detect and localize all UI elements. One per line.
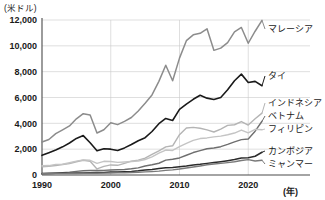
x-axis-year-label: (年) — [283, 186, 298, 197]
series-line-ベトナム — [42, 121, 262, 174]
y-axis-unit-label: (米ドル) — [4, 3, 37, 13]
y-axis-tick-labels: 02,0004,0006,0008,00010,00012,000 — [9, 15, 37, 180]
y-axis-tick-label: 10,000 — [9, 41, 37, 51]
y-axis-tick-label: 4,000 — [14, 119, 37, 129]
x-axis-tick-labels: 1990200020102020 — [32, 180, 258, 190]
y-axis-tick-label: 8,000 — [14, 67, 37, 77]
legend-label-カンボジア: カンボジア — [268, 146, 313, 156]
legend-leader-lines — [262, 20, 265, 164]
legend-leader-ベトナム — [262, 116, 265, 121]
series-line-マレーシア — [42, 20, 262, 142]
x-axis-tick-label: 2020 — [238, 180, 258, 190]
y-axis-tick-label: 6,000 — [14, 93, 37, 103]
legend-label-マレーシア: マレーシア — [268, 24, 313, 34]
data-series-group — [42, 20, 262, 173]
x-axis-tick-label: 2010 — [169, 180, 189, 190]
chart-canvas: 02,0004,0006,0008,00010,00012,000 199020… — [0, 0, 325, 200]
legend-leader-ミャンマー — [262, 160, 265, 164]
legend-label-フィリピン: フィリピン — [268, 124, 313, 134]
legend-leader-フィリピン — [262, 129, 265, 130]
legend-leader-カンボジア — [262, 151, 265, 152]
line-chart: 02,0004,0006,0008,00010,00012,000 199020… — [0, 0, 325, 200]
legend-leader-マレーシア — [262, 20, 265, 29]
y-axis-tick-label: 2,000 — [14, 144, 37, 154]
legend-leader-インドネシア — [262, 103, 265, 113]
legend-leader-タイ — [262, 76, 265, 86]
x-axis-tick-label: 1990 — [32, 180, 52, 190]
legend-label-ミャンマー: ミャンマー — [268, 159, 313, 169]
legend-label-ベトナム: ベトナム — [268, 111, 304, 121]
legend-label-インドネシア: インドネシア — [268, 98, 322, 108]
legend-label-タイ: タイ — [268, 71, 286, 81]
y-axis-tick-label: 12,000 — [9, 15, 37, 25]
y-axis-tick-label: 0 — [32, 170, 37, 180]
x-axis-tick-label: 2000 — [101, 180, 121, 190]
